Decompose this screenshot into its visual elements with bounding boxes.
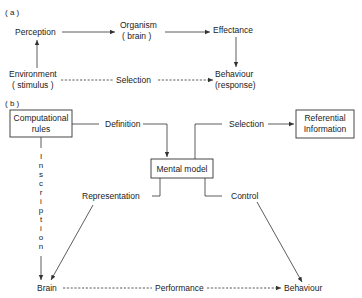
node-information: Information (304, 124, 347, 134)
node-rules: rules (32, 124, 50, 134)
edge-inscription: I n s c r i p t i o n (39, 152, 44, 251)
arrow-control-behaviour (257, 202, 302, 282)
svg-text:s: s (39, 170, 43, 179)
line-selection-left (195, 124, 222, 159)
node-behaviour-a-sub: (response) (215, 80, 256, 90)
svg-text:i: i (40, 197, 42, 206)
edge-control: Control (231, 191, 259, 201)
node-organism-sub: ( brain ) (122, 31, 151, 41)
node-perception: Perception (15, 27, 56, 37)
node-behaviour-a: Behaviour (215, 69, 253, 79)
svg-text:n: n (39, 161, 43, 170)
node-computational: Computational (14, 113, 69, 123)
svg-text:I: I (40, 152, 42, 161)
svg-text:n: n (39, 242, 43, 251)
node-environment: Environment (9, 69, 57, 79)
node-behaviour-b: Behaviour (284, 283, 322, 293)
edge-selection-b: Selection (229, 119, 264, 129)
node-environment-sub: ( stimulus ) (12, 80, 54, 90)
svg-text:c: c (39, 179, 43, 188)
svg-text:i: i (40, 224, 42, 233)
edge-selection-a: Selection (116, 75, 151, 85)
svg-text:t: t (40, 215, 43, 224)
line-definition-right (143, 124, 167, 157)
node-effectance: Effectance (213, 25, 253, 35)
arrow-representation-brain (51, 205, 93, 280)
svg-text:p: p (39, 206, 44, 215)
edge-performance: Performance (155, 283, 204, 293)
edge-definition: Definition (105, 119, 141, 129)
node-mental-model: Mental model (156, 164, 207, 174)
diagram-canvas: ( a ) Perception Organism ( brain ) Effe… (0, 0, 362, 298)
line-representation (152, 178, 160, 196)
node-brain: Brain (37, 283, 57, 293)
node-organism: Organism (120, 20, 157, 30)
panel-a-label: ( a ) (5, 8, 20, 17)
svg-text:o: o (39, 233, 44, 242)
edge-representation: Representation (82, 191, 140, 201)
svg-text:r: r (40, 188, 43, 197)
panel-b-label: ( b ) (5, 99, 20, 108)
node-referential: Referential (304, 113, 345, 123)
line-control (205, 178, 222, 196)
